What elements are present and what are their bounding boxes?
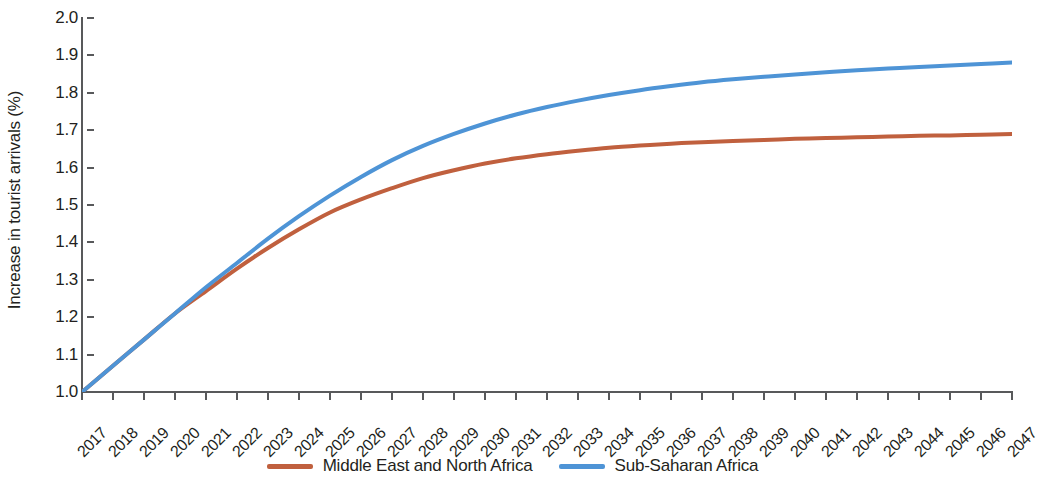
x-axis-tick-mark xyxy=(205,392,207,400)
x-axis-tick-mark xyxy=(732,392,734,400)
y-axis-tick: 1.6 xyxy=(0,158,94,178)
y-axis-tick: 1.9 xyxy=(0,45,94,65)
x-axis-tick-mark xyxy=(267,392,269,400)
x-axis-tick-mark xyxy=(236,392,238,400)
y-axis-tick: 1.3 xyxy=(0,270,94,290)
x-axis-tick-mark xyxy=(1011,392,1013,400)
x-axis-tick-mark xyxy=(577,392,579,400)
x-axis-tick-mark xyxy=(980,392,982,400)
y-axis-tick: 1.8 xyxy=(0,83,94,103)
x-axis-tick-mark xyxy=(887,392,889,400)
legend-label: Middle East and North Africa xyxy=(323,456,533,476)
x-axis-tick-mark xyxy=(670,392,672,400)
x-axis-tick-mark xyxy=(360,392,362,400)
x-axis-tick-mark xyxy=(546,392,548,400)
y-axis-tick: 1.2 xyxy=(0,307,94,327)
x-axis-tick-mark xyxy=(701,392,703,400)
legend-color-swatch xyxy=(267,464,313,469)
x-axis-tick-mark xyxy=(329,392,331,400)
y-axis-tick: 1.4 xyxy=(0,232,94,252)
legend-item[interactable]: Middle East and North Africa xyxy=(267,456,533,476)
x-axis-tick-mark xyxy=(856,392,858,400)
x-axis-tick-mark xyxy=(515,392,517,400)
y-axis-tick: 1.5 xyxy=(0,195,94,215)
x-axis-tick-mark xyxy=(298,392,300,400)
y-axis-tick: 1.0 xyxy=(0,382,94,402)
legend-color-swatch xyxy=(559,464,605,469)
x-axis-tick-mark xyxy=(484,392,486,400)
x-axis-tick-mark xyxy=(639,392,641,400)
x-axis-tick-mark xyxy=(112,392,114,400)
x-axis-tick-mark xyxy=(453,392,455,400)
chart-legend: Middle East and North AfricaSub-Saharan … xyxy=(0,452,1025,480)
y-axis-tick: 1.7 xyxy=(0,120,94,140)
series-line-2 xyxy=(82,63,1012,392)
series-line-1 xyxy=(82,134,1012,392)
x-axis-tick-mark xyxy=(174,392,176,400)
legend-label: Sub-Saharan Africa xyxy=(615,456,759,476)
x-axis-tick-mark xyxy=(422,392,424,400)
x-axis-tick-mark xyxy=(763,392,765,400)
y-axis-tick: 2.0 xyxy=(0,8,94,28)
x-axis-tick-mark xyxy=(918,392,920,400)
x-axis-tick-mark xyxy=(143,392,145,400)
x-axis-tick-mark xyxy=(391,392,393,400)
legend-item[interactable]: Sub-Saharan Africa xyxy=(559,456,759,476)
x-axis-tick-mark xyxy=(949,392,951,400)
x-axis-tick-mark xyxy=(825,392,827,400)
x-axis-tick-label: 2047 xyxy=(1028,400,1040,437)
x-axis-tick-mark xyxy=(81,392,83,400)
x-axis-tick-mark xyxy=(608,392,610,400)
plot-area xyxy=(82,18,1012,392)
y-axis-tick: 1.1 xyxy=(0,345,94,365)
series-lines xyxy=(82,18,1012,392)
x-axis-tick-mark xyxy=(794,392,796,400)
